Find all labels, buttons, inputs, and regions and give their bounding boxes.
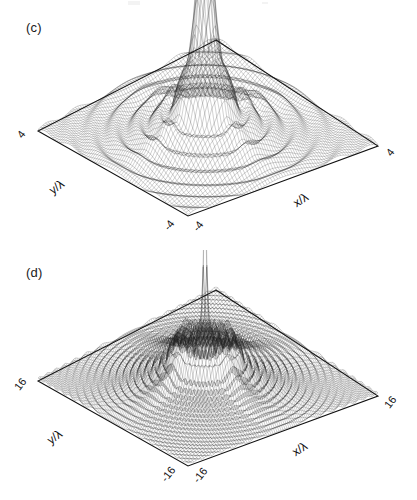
panel-c: (c) 4 4 -4 -4 y/λ x/λ [0, 0, 417, 250]
panel-d-surface-plot [0, 250, 417, 500]
panel-d: (d) 16 16 -16 -16 y/λ x/λ [0, 250, 417, 500]
figure-root: (c) 4 4 -4 -4 y/λ x/λ (d) 16 16 -16 -16 … [0, 0, 417, 500]
panel-c-surface-plot [0, 0, 417, 250]
